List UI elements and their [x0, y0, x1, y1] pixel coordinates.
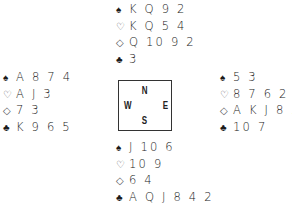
north-clubs: ♣3	[116, 51, 196, 68]
south-hearts-cards: 10 9	[129, 156, 163, 173]
south-clubs: ♣A Q J 8 4 2	[116, 189, 214, 206]
heart-icon: ♡	[116, 19, 129, 36]
west-hand: ♠A 8 7 4 ♡A J 3 ◇7 3 ♣K 9 6 5	[3, 69, 72, 136]
north-hand: ♠K Q 9 2 ♡K Q 5 4 ◇Q 10 9 2 ♣3	[116, 1, 196, 68]
club-icon: ♣	[220, 120, 233, 137]
spade-icon: ♠	[220, 70, 233, 87]
west-spades: ♠A 8 7 4	[3, 69, 72, 86]
west-hearts: ♡A J 3	[3, 86, 72, 103]
south-hearts: ♡10 9	[116, 156, 214, 173]
south-hand: ♠J 10 6 ♡10 9 ◇6 4 ♣A Q J 8 4 2	[116, 139, 214, 206]
heart-icon: ♡	[220, 87, 233, 104]
west-clubs: ♣K 9 6 5	[3, 119, 72, 136]
club-icon: ♣	[3, 120, 16, 137]
diamond-icon: ◇	[3, 103, 16, 120]
north-hearts-cards: K Q 5 4	[129, 18, 187, 35]
club-icon: ♣	[116, 190, 129, 207]
east-clubs-cards: 10 7	[233, 119, 267, 136]
compass-west-label: W	[124, 100, 132, 111]
diamond-icon: ◇	[220, 103, 233, 120]
compass-south-label: S	[142, 115, 147, 126]
spade-icon: ♠	[116, 2, 129, 19]
south-clubs-cards: A Q J 8 4 2	[129, 189, 214, 206]
north-hearts: ♡K Q 5 4	[116, 18, 196, 35]
east-spades: ♠5 3	[220, 69, 292, 86]
east-hearts-cards: 8 7 6 2	[233, 86, 289, 103]
east-hand: ♠5 3 ♡8 7 6 2 ◇A K J 8 5 ♣10 7	[220, 69, 292, 136]
compass-box: N W E S	[118, 80, 172, 131]
spade-icon: ♠	[116, 140, 129, 157]
east-clubs: ♣10 7	[220, 119, 292, 136]
west-hearts-cards: A J 3	[16, 86, 53, 103]
west-clubs-cards: K 9 6 5	[16, 119, 72, 136]
north-spades: ♠K Q 9 2	[116, 1, 196, 18]
north-diamonds: ◇Q 10 9 2	[116, 34, 196, 51]
south-diamonds-cards: 6 4	[129, 172, 154, 189]
east-diamonds-cards: A K J 8 5	[233, 102, 292, 119]
south-spades-cards: J 10 6	[129, 139, 175, 156]
east-hearts: ♡8 7 6 2	[220, 86, 292, 103]
diamond-icon: ◇	[116, 173, 129, 190]
west-diamonds: ◇7 3	[3, 102, 72, 119]
north-spades-cards: K Q 9 2	[129, 1, 187, 18]
compass-north-label: N	[142, 85, 148, 96]
south-spades: ♠J 10 6	[116, 139, 214, 156]
club-icon: ♣	[116, 52, 129, 69]
north-diamonds-cards: Q 10 9 2	[129, 34, 196, 51]
heart-icon: ♡	[116, 157, 129, 174]
spade-icon: ♠	[3, 70, 16, 87]
east-diamonds: ◇A K J 8 5	[220, 102, 292, 119]
south-diamonds: ◇6 4	[116, 172, 214, 189]
west-diamonds-cards: 7 3	[16, 102, 41, 119]
east-spades-cards: 5 3	[233, 69, 258, 86]
north-clubs-cards: 3	[129, 51, 139, 68]
compass-east-label: E	[163, 100, 168, 111]
diamond-icon: ◇	[116, 35, 129, 52]
west-spades-cards: A 8 7 4	[16, 69, 72, 86]
heart-icon: ♡	[3, 87, 16, 104]
